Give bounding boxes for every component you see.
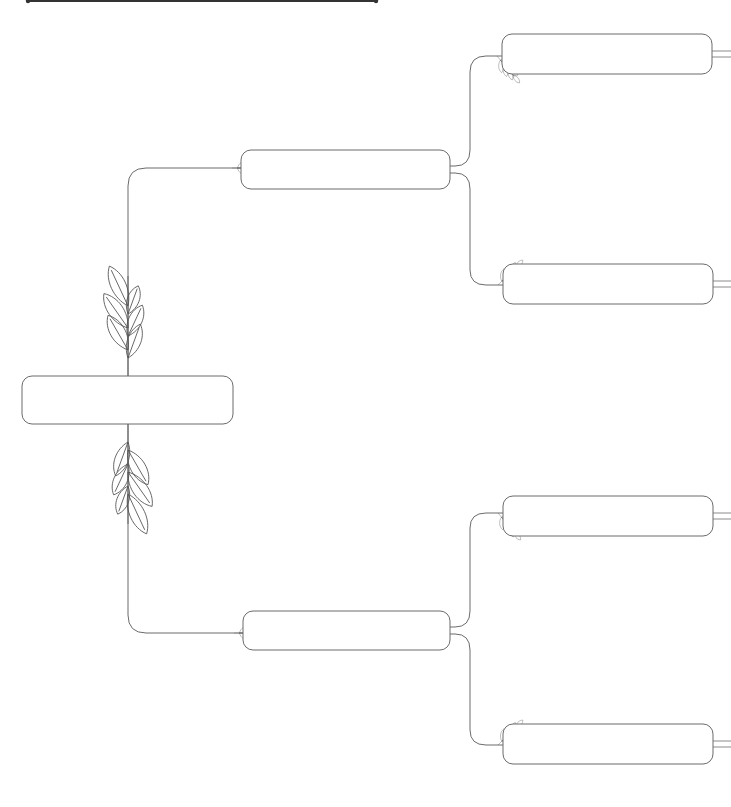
family-tree-diagram [0, 0, 731, 807]
connector-root-to-parent-top [128, 168, 241, 376]
title-underline [26, 0, 378, 3]
connector-pt-to-gp1 [450, 56, 502, 166]
continuation-stub [713, 281, 731, 287]
name-boxes [22, 34, 713, 764]
title-line-dot-left [26, 0, 30, 3]
name-box-grandparent-3[interactable] [503, 496, 713, 536]
leaf-branch-icon [98, 263, 149, 376]
name-box-grandparent-4[interactable] [503, 724, 713, 764]
name-box-parent-top[interactable] [241, 150, 450, 189]
connector-pb-to-gp3 [450, 513, 503, 627]
name-box-grandparent-1[interactable] [502, 34, 712, 74]
connector-root-to-parent-bottom [128, 424, 243, 633]
connector-pt-to-gp2 [450, 173, 503, 285]
continuation-stub [713, 513, 731, 519]
name-box-grandparent-2[interactable] [503, 264, 713, 304]
title-line-dot-right [374, 0, 378, 3]
continuation-stubs [712, 51, 731, 747]
connector-pb-to-gp4 [450, 634, 503, 745]
name-box-parent-bottom[interactable] [243, 611, 450, 650]
leaf-branch-icon [108, 424, 159, 537]
continuation-stub [712, 51, 731, 57]
name-box-root[interactable] [22, 376, 233, 424]
continuation-stub [713, 741, 731, 747]
